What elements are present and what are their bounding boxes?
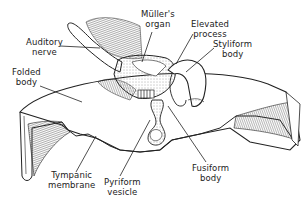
label-line: body [192, 174, 229, 184]
label-elevated-process: Elevated process [191, 20, 229, 39]
label-line: vesicle [104, 188, 141, 198]
label-tympanic-membrane: Tympanic membrane [48, 171, 95, 190]
label-styliform-body: Styliform body [213, 40, 252, 59]
label-mullers-organ: Müller's organ [141, 10, 175, 29]
label-line: process [191, 30, 229, 40]
label-folded-body: Folded body [12, 68, 41, 87]
label-auditory-nerve: Auditory nerve [26, 38, 63, 57]
label-line: body [213, 50, 252, 60]
label-pyriform-vesicle: Pyriform vesicle [104, 178, 141, 197]
label-fusiform-body: Fusiform body [192, 164, 229, 183]
label-line: membrane [48, 181, 95, 191]
tympanal-organ-illustration [0, 0, 304, 208]
label-line: body [12, 78, 41, 88]
label-line: nerve [26, 48, 63, 58]
label-line: organ [141, 20, 175, 30]
